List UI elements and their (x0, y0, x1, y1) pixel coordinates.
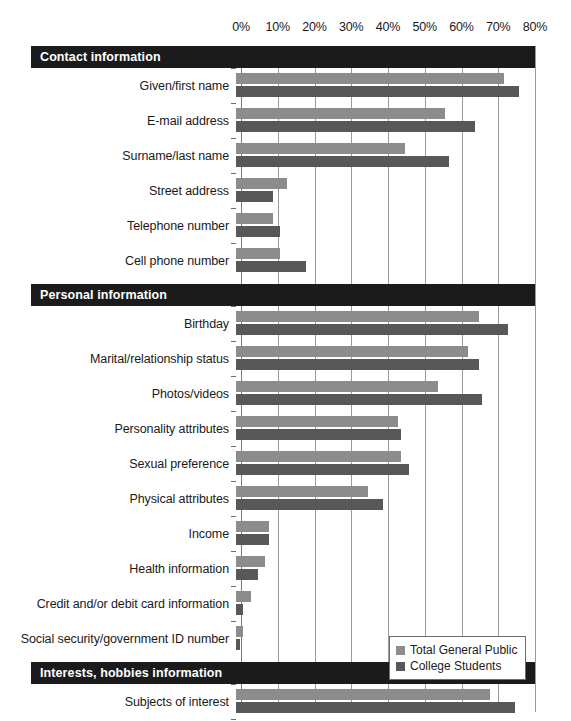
bar-total-general-public (236, 311, 479, 322)
bar-row-bars (236, 376, 530, 411)
x-axis-tick-label: 10% (266, 20, 290, 34)
x-axis-tick-label: 50% (413, 20, 437, 34)
y-axis-tick-mark (231, 243, 236, 244)
x-axis-tick-label: 40% (376, 20, 400, 34)
bar-chart: 0%10%20%30%40%50%60%70%80% Contact infor… (0, 0, 571, 721)
bar-row-bars (236, 481, 530, 516)
bar-row-bars (236, 341, 530, 376)
bar-college-students (236, 534, 269, 545)
bar-total-general-public (236, 556, 265, 567)
bar-row-bars (236, 516, 530, 551)
y-axis-tick-mark (231, 411, 236, 412)
bar-row: E-mail address (0, 103, 571, 138)
bar-row-label: Marital/relationship status (0, 352, 236, 366)
bar-row-label: Social security/government ID number (0, 632, 236, 646)
bar-total-general-public (236, 689, 490, 700)
y-axis-tick-mark (231, 103, 236, 104)
legend-label: Total General Public (410, 643, 517, 657)
bar-college-students (236, 394, 482, 405)
bar-row-bars (236, 173, 530, 208)
y-axis-tick-mark (231, 684, 236, 685)
bar-row-label: Telephone number (0, 219, 236, 233)
bar-total-general-public (236, 381, 438, 392)
bar-row-label: Physical attributes (0, 492, 236, 506)
y-axis-tick-mark (231, 481, 236, 482)
bar-row-bars (236, 411, 530, 446)
bar-row: Birthday (0, 306, 571, 341)
x-axis-tick-label: 0% (232, 20, 250, 34)
bar-row: Credit and/or debit card information (0, 586, 571, 621)
bar-total-general-public (236, 108, 445, 119)
bar-row: Subjects of interest (0, 684, 571, 719)
bar-college-students (236, 156, 449, 167)
bar-row-bars (236, 68, 530, 103)
bar-row-label: Subjects of interest (0, 695, 236, 709)
bar-row-bars (236, 138, 530, 173)
bar-row: Street address (0, 173, 571, 208)
bar-college-students (236, 359, 479, 370)
section-header: Personal information (31, 284, 535, 306)
bar-row: Given/first name (0, 68, 571, 103)
bar-row-bars (236, 446, 530, 481)
bar-row: Health information (0, 551, 571, 586)
bar-row-bars (236, 243, 530, 278)
bar-college-students (236, 226, 280, 237)
y-axis-tick-mark (231, 341, 236, 342)
bar-row: Marital/relationship status (0, 341, 571, 376)
bar-row-label: Cell phone number (0, 254, 236, 268)
bar-total-general-public (236, 416, 398, 427)
section-header: Contact information (31, 46, 535, 68)
bar-row: Sexual preference (0, 446, 571, 481)
bar-row-bars (236, 551, 530, 586)
bar-college-students (236, 429, 401, 440)
chart-rows: Contact informationGiven/first nameE-mai… (0, 46, 571, 721)
bar-row-bars (236, 586, 530, 621)
x-axis-tick-label: 30% (339, 20, 363, 34)
y-axis-tick-mark (231, 719, 236, 720)
y-axis-tick-mark (231, 551, 236, 552)
x-axis-tick-label: 20% (302, 20, 326, 34)
bar-college-students (236, 121, 475, 132)
bar-row-label: Personality attributes (0, 422, 236, 436)
y-axis-tick-mark (231, 208, 236, 209)
bar-total-general-public (236, 346, 468, 357)
bar-row: Physical attributes (0, 481, 571, 516)
bar-row-label: Surname/last name (0, 149, 236, 163)
bar-college-students (236, 639, 240, 650)
section-header-label: Contact information (31, 50, 161, 64)
bar-row: Cell phone number (0, 243, 571, 278)
y-axis-tick-mark (231, 138, 236, 139)
bar-college-students (236, 261, 306, 272)
bar-row-label: Income (0, 527, 236, 541)
bar-row: Personality attributes (0, 411, 571, 446)
bar-college-students (236, 499, 383, 510)
x-axis-tick-label: 80% (523, 20, 547, 34)
y-axis-tick-mark (231, 173, 236, 174)
bar-row: Photos/videos (0, 376, 571, 411)
bar-college-students (236, 702, 515, 713)
bar-total-general-public (236, 248, 280, 259)
y-axis-tick-mark (231, 376, 236, 377)
x-axis-tick-label: 70% (486, 20, 510, 34)
bar-row-label: Photos/videos (0, 387, 236, 401)
legend-item: Total General Public (396, 642, 517, 658)
bar-row-label: Health information (0, 562, 236, 576)
legend-item: College Students (396, 658, 517, 674)
legend-swatch-icon (396, 662, 405, 671)
bar-row: Income (0, 516, 571, 551)
bar-college-students (236, 191, 273, 202)
bar-row-bars (236, 103, 530, 138)
section-header-label: Interests, hobbies information (31, 666, 222, 680)
bar-row-label: Street address (0, 184, 236, 198)
bar-total-general-public (236, 626, 243, 637)
bar-total-general-public (236, 213, 273, 224)
bar-college-students (236, 569, 258, 580)
y-axis-tick-mark (231, 586, 236, 587)
x-axis-tick-label: 60% (449, 20, 473, 34)
y-axis-tick-mark (231, 446, 236, 447)
y-axis-tick-mark (231, 621, 236, 622)
bar-total-general-public (236, 486, 368, 497)
x-axis-tick-labels: 0%10%20%30%40%50%60%70%80% (0, 20, 571, 38)
bar-row-label: Given/first name (0, 79, 236, 93)
y-axis-tick-mark (231, 68, 236, 69)
